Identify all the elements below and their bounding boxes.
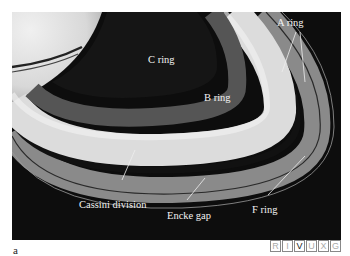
wavelength-x: X <box>318 240 329 252</box>
wavelength-g: G <box>330 240 341 252</box>
label-f-ring: F ring <box>252 205 277 216</box>
panel-letter: a <box>13 244 18 256</box>
label-cassini-division: Cassini division <box>79 200 146 211</box>
wavelength-r: R <box>270 240 281 252</box>
label-encke-gap: Encke gap <box>167 211 211 222</box>
label-a-ring: A ring <box>277 18 304 29</box>
wavelength-v: V <box>294 240 305 252</box>
wavelength-u: U <box>306 240 317 252</box>
label-c-ring: C ring <box>148 55 175 66</box>
wavelength-bar: R I V U X G <box>270 240 342 252</box>
wavelength-i: I <box>282 240 293 252</box>
rings-illustration <box>12 12 341 240</box>
label-b-ring: B ring <box>204 93 231 104</box>
saturn-rings-photo: A ring C ring B ring Cassini division En… <box>12 12 341 240</box>
